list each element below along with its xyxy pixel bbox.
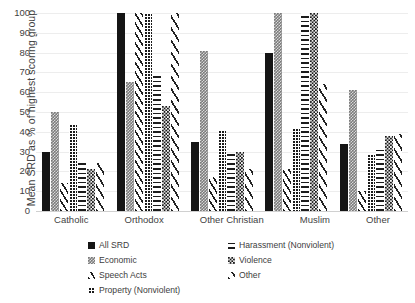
legend-swatch-icon — [88, 272, 95, 279]
legend-label: Economic — [99, 256, 137, 265]
bar[interactable] — [171, 13, 179, 211]
legend-label: Harassment (Nonviolent) — [239, 241, 334, 250]
bar[interactable] — [367, 154, 375, 211]
legend-label: All SRD — [99, 241, 129, 250]
legend-label: Property (Nonviolent) — [99, 286, 180, 295]
legend-item[interactable]: Other — [228, 271, 378, 280]
bar[interactable] — [245, 169, 253, 211]
legend-item[interactable]: Violence — [228, 256, 378, 265]
legend-label: Other — [239, 271, 261, 280]
bar[interactable] — [144, 13, 152, 211]
bar-group — [265, 13, 327, 211]
legend-label: Violence — [239, 256, 272, 265]
x-axis-label: Orthodox — [125, 214, 164, 225]
x-axis-label: Other — [366, 214, 390, 225]
y-axis-tick: 0 — [25, 206, 30, 216]
bar[interactable] — [265, 53, 273, 211]
legend-label: Speech Acts — [99, 271, 147, 280]
bar[interactable] — [236, 152, 244, 211]
y-axis-tick: 30 — [19, 147, 30, 157]
y-axis-tick: 60 — [19, 87, 30, 97]
plot-area — [36, 13, 408, 211]
bar[interactable] — [292, 128, 300, 211]
bar[interactable] — [349, 90, 357, 211]
legend-swatch-icon — [88, 257, 95, 264]
y-axis-tick: 90 — [19, 28, 30, 38]
bar[interactable] — [385, 136, 393, 211]
legend: All SRDHarassment (Nonviolent)EconomicVi… — [88, 238, 378, 298]
legend-swatch-icon — [228, 257, 235, 264]
bar[interactable] — [209, 177, 217, 211]
y-axis-tick-labels: 0102030405060708090100 — [0, 13, 34, 211]
bar[interactable] — [394, 134, 402, 211]
bar[interactable] — [376, 150, 384, 211]
y-axis-tick: 10 — [19, 186, 30, 196]
y-axis-tick: 40 — [19, 127, 30, 137]
legend-swatch-icon — [228, 242, 235, 249]
gridline — [36, 211, 408, 212]
bar[interactable] — [200, 51, 208, 211]
bar-group — [191, 13, 253, 211]
bar[interactable] — [218, 130, 226, 211]
bar[interactable] — [126, 82, 134, 211]
bar[interactable] — [96, 163, 104, 211]
y-axis-tick: 20 — [19, 167, 30, 177]
bar[interactable] — [358, 191, 366, 211]
legend-item[interactable]: Harassment (Nonviolent) — [228, 241, 378, 250]
bar[interactable] — [78, 162, 86, 212]
bar[interactable] — [227, 154, 235, 211]
bar[interactable] — [60, 183, 68, 211]
bar-groups — [36, 13, 408, 211]
x-axis-label: Muslim — [300, 214, 330, 225]
bar[interactable] — [310, 13, 318, 211]
bar[interactable] — [162, 106, 170, 211]
legend-item[interactable]: All SRD — [88, 241, 228, 250]
bar[interactable] — [283, 169, 291, 211]
bar-group — [340, 13, 402, 211]
bar[interactable] — [69, 124, 77, 211]
bar[interactable] — [319, 84, 327, 211]
y-axis-tick: 70 — [19, 68, 30, 78]
bar[interactable] — [51, 112, 59, 211]
bar[interactable] — [42, 152, 50, 211]
legend-item[interactable]: Property (Nonviolent) — [88, 286, 228, 295]
legend-swatch-icon — [228, 272, 235, 279]
bar[interactable] — [87, 169, 95, 211]
bar[interactable] — [153, 74, 161, 211]
bar[interactable] — [117, 13, 125, 211]
chart-root: Mean SRD as % of highest scoring group 0… — [0, 0, 415, 303]
bar[interactable] — [301, 13, 309, 211]
bar[interactable] — [340, 144, 348, 211]
bar[interactable] — [274, 13, 282, 211]
y-axis-tick: 80 — [19, 48, 30, 58]
x-axis-category-labels: CatholicOrthodoxOther ChristianMuslimOth… — [36, 214, 408, 230]
x-axis-label: Catholic — [54, 214, 88, 225]
y-axis-tick: 100 — [14, 8, 30, 18]
x-axis-label: Other Christian — [200, 214, 264, 225]
y-axis-tick: 50 — [19, 107, 30, 117]
bar[interactable] — [191, 142, 199, 211]
legend-item[interactable]: Economic — [88, 256, 228, 265]
bar-group — [117, 13, 179, 211]
bar-group — [42, 13, 104, 211]
legend-swatch-icon — [88, 242, 95, 249]
legend-swatch-icon — [88, 287, 95, 294]
legend-item[interactable]: Speech Acts — [88, 271, 228, 280]
bar[interactable] — [135, 13, 143, 211]
